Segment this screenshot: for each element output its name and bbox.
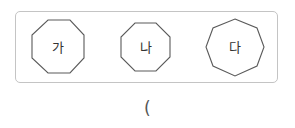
shape-da: 다: [206, 19, 264, 76]
shape-ga: 가: [32, 20, 84, 73]
shape-label-ga: 가: [52, 40, 64, 55]
answer-blank-open-paren: (: [144, 100, 151, 117]
shape-label-na: 나: [140, 40, 152, 55]
shape-na: 나: [121, 23, 170, 71]
shape-label-da: 다: [229, 40, 241, 55]
